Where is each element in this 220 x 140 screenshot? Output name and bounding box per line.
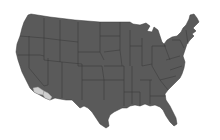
- us-landmass: [16, 14, 199, 128]
- us-map-svg: [0, 0, 220, 140]
- us-map: [0, 0, 220, 140]
